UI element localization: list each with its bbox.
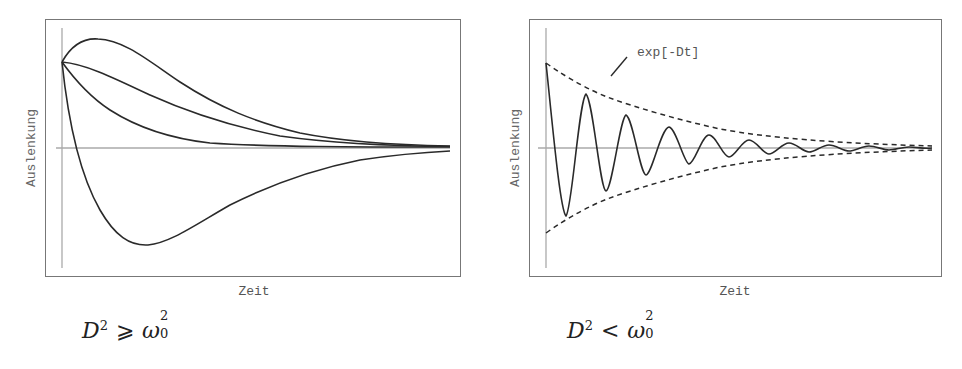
right-damped-oscillation: [546, 63, 932, 216]
annotation-pointer-line: [611, 57, 627, 76]
right-x-axis-label: Zeit: [719, 284, 750, 299]
caption-lhs-exponent: 2: [585, 318, 593, 333]
right-y-axis-label: Auslenkung: [508, 109, 523, 187]
envelope-annotation-label: exp[-Dt]: [637, 45, 699, 60]
right-plot-area: [0, 0, 962, 369]
caption-rhs-subscript: 0: [645, 326, 653, 341]
caption-lhs: D: [567, 318, 585, 343]
right-condition-caption: D2<ω20: [567, 316, 655, 343]
right-envelope-lower: [546, 150, 932, 233]
caption-rhs-exponent: 2: [645, 308, 653, 323]
caption-rhs: ω: [627, 318, 645, 343]
caption-operator: <: [601, 318, 619, 343]
right-envelope-upper: [546, 63, 932, 146]
